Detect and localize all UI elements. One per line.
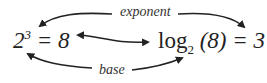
log-argument-result: (8) = 3: [194, 28, 265, 53]
exponent-arrow-left: [40, 13, 112, 26]
log-function: log: [158, 28, 187, 53]
base-label: base: [97, 62, 127, 78]
base-arrow-right: [132, 58, 182, 70]
exponential-equation: 23 = 8: [13, 28, 70, 57]
exponent-value: 3: [25, 27, 32, 42]
exponent-arrow-right: [178, 14, 244, 27]
double-arrow: [78, 35, 148, 42]
logarithmic-equation: log2 (8) = 3: [158, 28, 265, 57]
base-value: 2: [13, 28, 25, 53]
exponent-label: exponent: [118, 4, 173, 20]
exponential-result: = 8: [31, 28, 70, 53]
log-exponent-diagram: exponent base 23 = 8 log2 (8) = 3: [0, 0, 267, 83]
log-base: 2: [187, 42, 194, 57]
